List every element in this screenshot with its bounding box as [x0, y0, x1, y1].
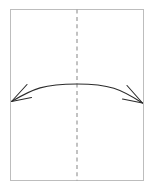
- fold-diagram: [0, 0, 153, 188]
- diagram-canvas: [0, 0, 153, 188]
